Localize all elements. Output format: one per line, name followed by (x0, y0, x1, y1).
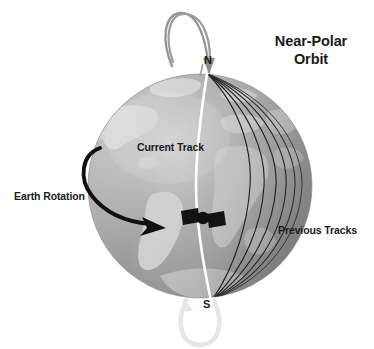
previous-tracks-label: Previous Tracks (278, 224, 357, 236)
landmasses (88, 74, 312, 298)
orbit-arc-south-icon (180, 300, 219, 345)
figure-title-line-1: Near-Polar (255, 33, 367, 51)
figure-title-line-2: Orbit (255, 51, 367, 69)
near-polar-orbit-diagram: Near-Polar Orbit Earth Rotation Current … (0, 0, 374, 349)
figure-title: Near-Polar Orbit (255, 33, 367, 68)
current-track-label: Current Track (137, 141, 204, 153)
earth-rotation-label: Earth Rotation (14, 190, 85, 202)
south-pole-label: S (203, 298, 210, 311)
north-pole-label: N (204, 54, 212, 67)
earth-globe (88, 74, 312, 298)
